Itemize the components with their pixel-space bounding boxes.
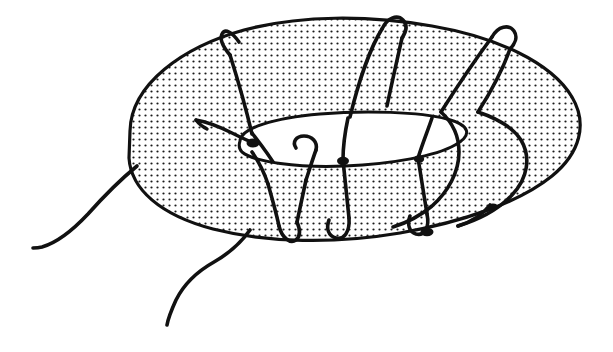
string-tail-left (33, 166, 137, 248)
contact-blob-bottom-right (421, 228, 434, 236)
contact-blob-inner-right (414, 155, 424, 163)
contact-blob-inner-mid (337, 157, 349, 165)
string-tail-lower (167, 230, 250, 325)
figure-root: Torus with a string wrapped around it Ha… (0, 0, 613, 352)
contact-blob-right-end (488, 204, 497, 211)
torus-diagram (0, 0, 613, 352)
contact-blob-inner-left (247, 139, 260, 148)
